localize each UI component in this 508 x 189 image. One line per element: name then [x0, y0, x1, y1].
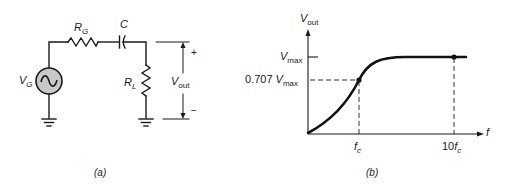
caption-b: (b) [366, 168, 378, 178]
point-10fc-marker [451, 54, 456, 59]
resistor-rg-icon [68, 38, 98, 46]
label-fc: fc [354, 141, 361, 155]
y-axis-arrow-icon [306, 29, 311, 36]
label-vout: Vout [171, 76, 189, 90]
label-10fc: 10fc [442, 141, 461, 155]
label-y-axis: Vout [300, 13, 318, 27]
wire-cap-rl [123, 42, 146, 65]
label-x-axis: f [486, 127, 489, 138]
label-rl: RL [124, 77, 136, 91]
response-graph [306, 29, 485, 137]
x-axis-arrow-icon [477, 132, 484, 137]
point-fc-marker [356, 77, 361, 82]
caption-a: (a) [94, 168, 106, 178]
label-vg: VG [19, 75, 33, 89]
label-707-vmax: 0.707 Vmax [245, 74, 298, 88]
label-rg: RG [74, 22, 88, 36]
ground-rl-icon [139, 119, 153, 126]
label-plus: + [191, 48, 197, 58]
ground-source-icon [42, 119, 56, 126]
resistor-rl-icon [142, 65, 150, 96]
label-minus: − [191, 106, 197, 116]
label-c: C [120, 19, 128, 30]
wire-source-top [49, 42, 68, 68]
ac-source-icon [36, 68, 62, 94]
response-curve [308, 57, 466, 133]
label-vmax: Vmax [280, 51, 302, 65]
